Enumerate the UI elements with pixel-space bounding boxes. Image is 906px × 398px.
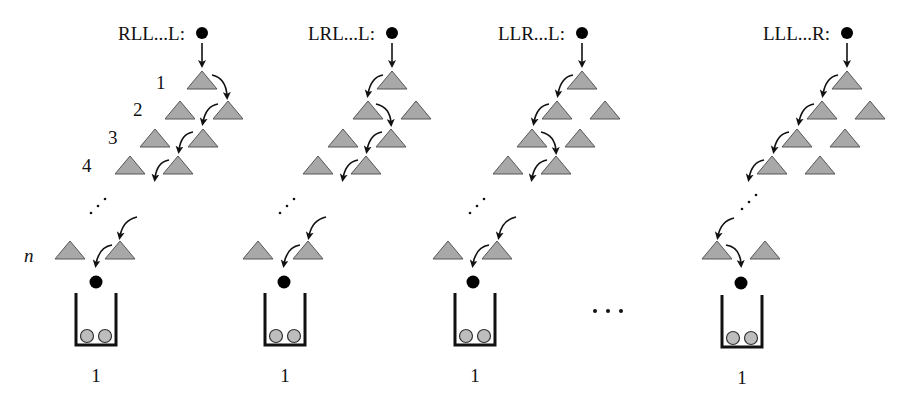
ellipsis-dot [293,198,296,201]
peg [377,71,407,89]
peg [328,129,358,147]
arrow-left [120,217,137,236]
bucket-label: 1 [280,365,290,386]
peg [830,129,860,147]
peg [482,241,512,259]
peg [493,156,523,174]
bucket-label: 1 [91,365,101,386]
ball-end [735,277,748,290]
ellipsis-dot [97,205,100,208]
peg [757,156,787,174]
arrow-left [499,217,516,236]
ellipsis-dot [755,194,758,197]
bucket [265,293,305,345]
arrow-left [309,217,326,236]
peg [401,101,431,119]
peg [55,241,85,259]
path-label: LRL...L: [308,23,375,44]
row-label-2: 2 [133,99,143,120]
peg [115,156,145,174]
ellipsis-dot [606,309,610,313]
peg [163,156,193,174]
ball-end [90,276,103,289]
peg [807,101,837,119]
ball-start [196,27,208,39]
panel-lrl: LRL...L: 1 [243,23,431,386]
path-label: LLR...L: [498,23,565,44]
peg [105,241,135,259]
bucket [722,295,762,347]
peg [565,129,595,147]
ellipsis-dot [90,212,93,215]
ellipsis-dot [483,198,486,201]
arrow-right [541,132,556,151]
galton-board-diagram: 1 2 3 4 n RLL...L: 1 LRL...L: [0,0,906,398]
peg [567,71,597,89]
row-label-1: 1 [156,72,166,93]
ellipsis-dot [476,205,479,208]
bucket-label: 1 [737,367,747,388]
arrow-left [718,218,734,236]
peg [805,156,835,174]
bucket-label: 1 [470,365,480,386]
ellipsis-dot [593,309,597,313]
bucket [76,293,116,345]
panel-rll: RLL...L: 1 [55,23,243,386]
peg [590,101,620,119]
peg [293,241,323,259]
ball-end [278,276,291,289]
row-label-n: n [24,245,34,266]
ellipsis-dot [469,212,472,215]
peg [353,101,383,119]
panel-lllr: LLL...R: 1 [702,23,885,388]
peg [855,101,885,119]
peg [782,129,812,147]
ellipsis-dot [748,201,751,204]
peg [351,156,381,174]
path-label: LLL...R: [763,23,830,44]
peg [541,156,571,174]
ellipsis-dot [286,205,289,208]
row-label-3: 3 [108,127,118,148]
panel-llr: LLR...L: 1 [433,23,620,386]
peg [433,241,463,259]
peg [187,71,217,89]
peg [832,71,862,89]
peg [702,241,732,259]
ellipsis-dot [741,208,744,211]
peg [542,101,572,119]
ellipsis-dot [104,198,107,201]
ellipsis-dot [279,212,282,215]
peg [140,129,170,147]
ball-start [576,27,588,39]
bucket [455,293,495,345]
peg [243,241,273,259]
peg [303,156,333,174]
path-label: RLL...L: [118,23,185,44]
peg [750,241,780,259]
peg [165,101,195,119]
ellipsis-dot [619,309,623,313]
horizontal-ellipsis [593,309,623,313]
ball-start [841,27,853,39]
ball-start [386,27,398,39]
ball-end [467,276,480,289]
row-label-4: 4 [82,155,92,176]
